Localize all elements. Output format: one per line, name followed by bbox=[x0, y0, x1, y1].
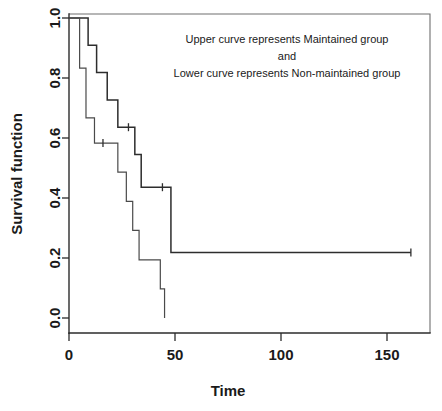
y-ticklabel-4: 0.8 bbox=[46, 68, 63, 89]
x-ticklabel-0: 0 bbox=[65, 346, 73, 363]
y-axis-tick-labels: 1.0 0.8 0.6 0.4 0.2 0.0 bbox=[46, 8, 63, 329]
x-ticklabel-100: 100 bbox=[268, 346, 293, 363]
km-step-line-lower-curve bbox=[69, 18, 165, 318]
curve-legend-annotation: Upper curve represents Maintained group … bbox=[174, 33, 401, 79]
y-ticklabel-1: 0.2 bbox=[46, 248, 63, 269]
y-ticklabel-2: 0.4 bbox=[46, 187, 63, 209]
y-axis-ticks bbox=[62, 18, 69, 318]
survival-plot-figure: 1.0 0.8 0.6 0.4 0.2 0.0 0 50 100 150 Tim… bbox=[0, 0, 442, 411]
x-axis-ticks bbox=[69, 333, 387, 341]
y-axis-title: Survival function bbox=[8, 113, 25, 235]
km-curve-upper-curve bbox=[69, 18, 411, 257]
y-ticklabel-5: 1.0 bbox=[46, 8, 63, 29]
km-curves-group bbox=[69, 18, 411, 318]
annotation-line-3: Lower curve represents Non-maintained gr… bbox=[174, 67, 401, 79]
km-step-line-upper-curve bbox=[69, 18, 411, 253]
annotation-line-2: and bbox=[278, 50, 296, 62]
x-ticklabel-150: 150 bbox=[374, 346, 399, 363]
x-axis-title: Time bbox=[211, 382, 246, 399]
annotation-line-1: Upper curve represents Maintained group bbox=[185, 33, 388, 45]
x-ticklabel-50: 50 bbox=[167, 346, 184, 363]
y-ticklabel-0: 0.0 bbox=[46, 308, 63, 329]
plot-frame bbox=[69, 14, 430, 333]
plot-canvas: 1.0 0.8 0.6 0.4 0.2 0.0 0 50 100 150 Tim… bbox=[0, 0, 442, 411]
km-curve-lower-curve bbox=[69, 18, 165, 318]
x-axis-tick-labels: 0 50 100 150 bbox=[65, 346, 400, 363]
y-ticklabel-3: 0.6 bbox=[46, 128, 63, 149]
